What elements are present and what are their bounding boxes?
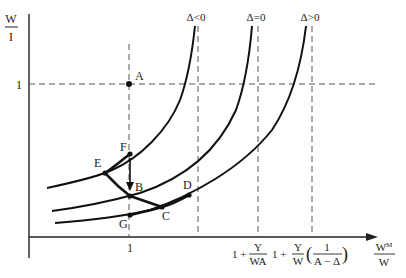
svg-text:W: W	[379, 256, 390, 268]
point-B	[127, 193, 132, 198]
svg-text:A − Δ: A − Δ	[314, 255, 340, 267]
guide-lines	[29, 26, 376, 237]
path-E-B	[105, 173, 130, 196]
curve-label-delta-neg: Δ<0	[187, 11, 206, 23]
label-E: E	[94, 156, 101, 170]
points	[102, 81, 191, 218]
point-E	[102, 170, 107, 175]
point-A	[126, 81, 132, 87]
y-tick-1: 1	[16, 78, 22, 92]
label-G: G	[119, 217, 128, 231]
x-axis-arrow-icon	[366, 233, 378, 241]
label-A: A	[135, 69, 144, 83]
x-tick-1: 1	[127, 241, 133, 255]
label-C: C	[162, 209, 170, 223]
curve-delta-pos	[55, 26, 306, 223]
svg-text:W: W	[5, 12, 17, 26]
curve-label-delta-zero: Δ=0	[247, 11, 266, 23]
svg-text:Y: Y	[254, 241, 262, 253]
curves	[47, 26, 306, 223]
x-asymptote-label-second: 1 + Y W ( 1 A − Δ )	[272, 241, 348, 267]
svg-text:1: 1	[324, 241, 330, 253]
svg-text:1 +: 1 +	[272, 248, 286, 260]
svg-text:W: W	[293, 255, 304, 267]
svg-text:I: I	[9, 30, 13, 44]
label-F: F	[120, 140, 127, 154]
curve-label-delta-pos: Δ>0	[301, 11, 320, 23]
curve-delta-neg	[47, 26, 195, 188]
point-D	[186, 192, 191, 197]
path-B-C	[130, 196, 162, 207]
svg-text:WM: WM	[376, 241, 393, 253]
svg-text:WA: WA	[249, 255, 266, 267]
arrow-down-icon	[126, 182, 134, 191]
label-D: D	[183, 178, 192, 192]
adjustment-path	[105, 154, 189, 215]
y-axis-label: W I	[5, 12, 18, 44]
point-F	[127, 151, 132, 156]
svg-text:(: (	[306, 244, 312, 265]
curve-delta-zero	[52, 26, 252, 211]
svg-text:1 +: 1 +	[232, 248, 246, 260]
label-B: B	[135, 180, 143, 194]
x-asymptote-label-first: 1 + Y WA	[232, 241, 267, 267]
svg-text:Y: Y	[294, 241, 302, 253]
point-G	[127, 212, 132, 217]
svg-text:): )	[342, 244, 348, 265]
x-axis-label: WM W	[374, 241, 395, 268]
economics-diagram: W I 1 1 Δ<0 Δ=0 Δ>0	[0, 0, 406, 278]
